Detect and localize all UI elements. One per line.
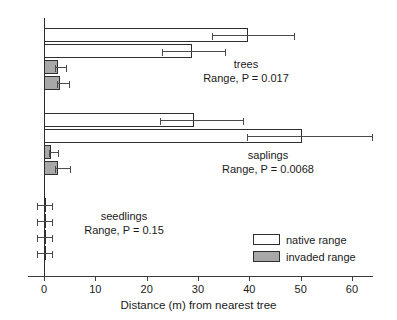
group-annotation-seedlings: seedlings Range, P = 0.15 xyxy=(62,209,186,237)
x-tick-30 xyxy=(198,276,199,281)
legend-label-native: native range xyxy=(286,234,347,246)
legend-item-native: native range xyxy=(253,232,356,247)
x-tick-label-50: 50 xyxy=(295,283,307,295)
error-cap-high xyxy=(243,118,244,125)
group-range-seedlings: Range, P = 0.15 xyxy=(62,223,186,237)
error-bar-trees-2 xyxy=(55,67,66,68)
error-cap-low xyxy=(49,150,50,157)
error-cap-low xyxy=(212,33,213,40)
error-bar-saplings-0 xyxy=(160,120,244,121)
x-axis-label: Distance (m) from nearest tree xyxy=(0,299,397,311)
error-bar-trees-1 xyxy=(162,51,226,52)
error-cap-low xyxy=(37,235,38,242)
group-range-trees: Range, P = 0.017 xyxy=(186,71,306,85)
x-axis-line xyxy=(28,276,373,277)
error-cap-low xyxy=(37,219,38,226)
error-cap-high xyxy=(225,49,226,56)
error-bar-seedlings-3 xyxy=(37,253,53,254)
error-bar-seedlings-1 xyxy=(37,221,53,222)
error-bar-saplings-2 xyxy=(49,152,59,153)
x-tick-50 xyxy=(301,276,302,281)
error-cap-low xyxy=(57,81,58,88)
x-tick-label-60: 60 xyxy=(346,283,358,295)
error-bar-trees-0 xyxy=(212,35,295,36)
error-cap-high xyxy=(52,251,53,258)
error-cap-high xyxy=(52,235,53,242)
legend-label-invaded: invaded range xyxy=(286,251,356,263)
legend-swatch-native-icon xyxy=(253,234,280,245)
error-bar-trees-3 xyxy=(57,83,69,84)
error-cap-high xyxy=(70,166,71,173)
x-tick-label-30: 30 xyxy=(192,283,204,295)
group-range-saplings: Range, P = 0.0068 xyxy=(198,162,338,176)
error-cap-high xyxy=(372,134,373,141)
group-label-seedlings: seedlings xyxy=(62,209,186,223)
group-label-saplings: saplings xyxy=(198,148,338,162)
group-annotation-saplings: saplings Range, P = 0.0068 xyxy=(198,148,338,176)
error-cap-low xyxy=(247,134,248,141)
error-cap-low xyxy=(162,49,163,56)
legend-swatch-invaded-icon xyxy=(253,251,280,262)
error-bar-seedlings-0 xyxy=(37,205,53,206)
error-cap-low xyxy=(37,251,38,258)
error-cap-high xyxy=(52,219,53,226)
chart-figure: 0102030405060 trees Range, P = 0.017 sap… xyxy=(0,0,397,320)
error-cap-high xyxy=(58,150,59,157)
x-tick-label-0: 0 xyxy=(41,283,47,295)
x-tick-60 xyxy=(352,276,353,281)
plot-area: 0102030405060 trees Range, P = 0.017 sap… xyxy=(0,0,397,320)
x-tick-label-10: 10 xyxy=(89,283,101,295)
group-label-trees: trees xyxy=(186,57,306,71)
error-cap-high xyxy=(52,203,53,210)
group-annotation-trees: trees Range, P = 0.017 xyxy=(186,57,306,85)
error-cap-low xyxy=(37,203,38,210)
error-cap-low xyxy=(55,65,56,72)
error-bar-seedlings-2 xyxy=(37,237,53,238)
error-cap-high xyxy=(66,65,67,72)
x-tick-40 xyxy=(249,276,250,281)
x-tick-label-40: 40 xyxy=(243,283,255,295)
error-cap-high xyxy=(69,81,70,88)
legend-item-invaded: invaded range xyxy=(253,249,356,264)
x-tick-20 xyxy=(147,276,148,281)
x-tick-10 xyxy=(95,276,96,281)
error-bar-saplings-3 xyxy=(55,168,70,169)
error-cap-high xyxy=(294,33,295,40)
x-tick-label-20: 20 xyxy=(141,283,153,295)
error-bar-saplings-1 xyxy=(247,136,373,137)
error-cap-low xyxy=(160,118,161,125)
x-tick-0 xyxy=(44,276,45,281)
error-cap-low xyxy=(55,166,56,173)
chart-legend: native range invaded range xyxy=(253,232,356,266)
